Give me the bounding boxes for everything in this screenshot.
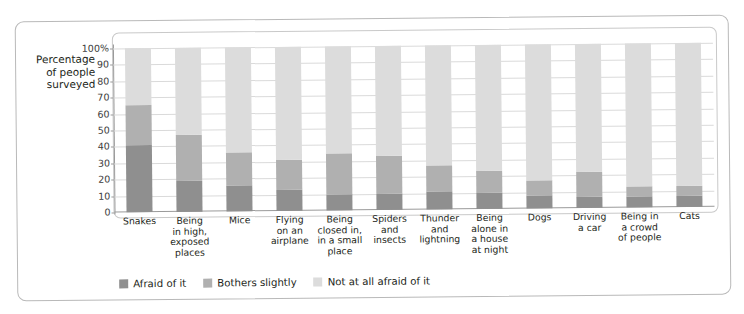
- x-axis-label-line: place: [315, 246, 365, 257]
- bar-segment-bothers-slightly: [176, 135, 202, 181]
- bar-flying-on-an-airplane[interactable]: [275, 47, 303, 211]
- legend-item[interactable]: Not at all afraid of it: [314, 275, 430, 287]
- bar-being-alone-in-a-house-at-night[interactable]: [475, 45, 503, 209]
- bar-segment-not-at-all-afraid-of-it: [675, 43, 702, 186]
- bar-being-in-a-crowd-of-people[interactable]: [625, 43, 653, 207]
- legend-label: Afraid of it: [133, 278, 186, 290]
- bar-segment-bothers-slightly: [326, 153, 352, 194]
- x-axis-category-label: Thunderandlightning: [415, 213, 465, 245]
- bar-thunder-and-lightning[interactable]: [425, 45, 453, 209]
- legend-swatch-icon: [314, 277, 323, 286]
- x-axis-label-line: insects: [365, 235, 415, 246]
- y-axis-tick: [110, 65, 113, 66]
- x-axis-category-label: Mice: [215, 215, 265, 226]
- x-axis-label-line: at night: [465, 244, 515, 255]
- x-axis-category-label: Beingin high,exposedplaces: [165, 216, 215, 259]
- y-axis-tick-label: 40: [64, 142, 110, 152]
- y-axis-tick: [111, 147, 114, 148]
- bar-segment-not-at-all-afraid-of-it: [125, 48, 152, 106]
- x-axis-category-label: Flyingon anairplane: [265, 215, 315, 247]
- bar-segment-not-at-all-afraid-of-it: [175, 48, 202, 135]
- gridline: [114, 174, 714, 181]
- x-axis-category-label: Cats: [665, 211, 715, 222]
- bar-segment-not-at-all-afraid-of-it: [625, 43, 652, 186]
- legend-swatch-icon: [203, 279, 212, 288]
- gridline: [113, 92, 713, 99]
- gridline: [114, 125, 714, 132]
- x-axis-label-line: Mice: [215, 215, 265, 226]
- x-axis-category-label: Snakes: [115, 216, 165, 227]
- legend-label: Bothers slightly: [217, 277, 297, 289]
- bar-segment-bothers-slightly: [226, 152, 252, 185]
- legend-item[interactable]: Afraid of it: [119, 278, 186, 290]
- x-axis-label-line: of people: [615, 232, 665, 243]
- bar-segment-afraid-of-it: [226, 185, 252, 211]
- gridline: [114, 158, 714, 165]
- bar-spiders-and-insects[interactable]: [375, 46, 403, 210]
- y-axis-tick-label: 10: [64, 191, 110, 201]
- bar-segment-bothers-slightly: [626, 186, 652, 196]
- y-axis-tick: [111, 180, 114, 181]
- y-axis-tick-label: 100%: [63, 44, 109, 54]
- x-axis-category-label: Spidersandinsects: [365, 214, 415, 246]
- bar-segment-afraid-of-it: [676, 195, 702, 207]
- x-axis-category-label: Drivinga car: [565, 212, 615, 234]
- bar-being-closed-in-in-a-small-place[interactable]: [325, 46, 353, 210]
- bar-segment-not-at-all-afraid-of-it: [525, 44, 552, 180]
- y-axis-tick: [111, 163, 114, 164]
- x-axis-category-label: Beingalone ina houseat night: [465, 213, 515, 256]
- x-axis-label-line: places: [165, 247, 215, 258]
- y-axis-tick-label: 20: [64, 175, 110, 185]
- y-axis-tick: [112, 212, 115, 213]
- y-axis-tick-label: 60: [64, 109, 110, 119]
- bar-segment-not-at-all-afraid-of-it: [575, 44, 602, 172]
- chart: Percentage of people surveyed 0102030405…: [0, 0, 744, 314]
- bar-being-in-high-exposed-places[interactable]: [175, 48, 203, 212]
- bar-segment-afraid-of-it: [526, 195, 552, 208]
- legend-item[interactable]: Bothers slightly: [203, 277, 297, 289]
- bar-mice[interactable]: [225, 47, 253, 211]
- bar-segment-afraid-of-it: [126, 145, 153, 212]
- bar-driving-a-car[interactable]: [575, 44, 603, 208]
- y-axis-tick: [111, 130, 114, 131]
- x-axis-label-line: Snakes: [115, 216, 165, 227]
- x-axis-label-line: a car: [565, 222, 615, 233]
- bar-segment-not-at-all-afraid-of-it: [375, 46, 402, 156]
- y-axis-tick: [110, 98, 113, 99]
- y-axis-tick: [110, 48, 113, 49]
- bar-segment-bothers-slightly: [476, 171, 502, 193]
- bar-segment-bothers-slightly: [526, 180, 552, 195]
- bar-segment-afraid-of-it: [426, 191, 452, 209]
- x-axis-label-line: lightning: [415, 234, 465, 245]
- x-axis-category-label: Being ina crowdof people: [615, 211, 665, 243]
- bar-segment-afraid-of-it: [276, 189, 302, 211]
- bar-dogs[interactable]: [525, 44, 553, 208]
- bar-segment-not-at-all-afraid-of-it: [275, 47, 302, 160]
- x-axis-label-line: airplane: [265, 236, 315, 247]
- y-axis-tick-label: 0: [64, 208, 110, 218]
- bar-cats[interactable]: [675, 43, 703, 207]
- bar-segment-afraid-of-it: [476, 192, 502, 209]
- bar-segment-not-at-all-afraid-of-it: [225, 47, 252, 152]
- figure: Percentage of people surveyed 0102030405…: [0, 0, 744, 314]
- bar-segment-bothers-slightly: [276, 160, 302, 190]
- gridline: [114, 141, 714, 148]
- legend-label: Not at all afraid of it: [328, 275, 430, 287]
- gridline: [113, 59, 713, 66]
- x-axis-category-label: Beingclosed in,in a smallplace: [315, 214, 365, 257]
- bar-segment-not-at-all-afraid-of-it: [425, 45, 452, 165]
- bar-segment-bothers-slightly: [376, 156, 402, 194]
- y-axis-tick: [110, 81, 113, 82]
- y-axis-tick-label: 80: [63, 76, 109, 86]
- gridline: [114, 190, 714, 197]
- bar-segment-bothers-slightly: [125, 106, 151, 146]
- x-axis-category-label: Dogs: [515, 212, 565, 223]
- y-axis-tick: [111, 114, 114, 115]
- y-axis-tick-label: 50: [64, 126, 110, 136]
- bar-snakes[interactable]: [125, 48, 153, 212]
- y-axis-tick-label: 30: [64, 158, 110, 168]
- x-axis-label-line: Cats: [665, 211, 715, 222]
- y-axis-tick-label: 90: [63, 60, 109, 70]
- bar-segment-not-at-all-afraid-of-it: [475, 45, 502, 172]
- bar-segment-bothers-slightly: [426, 165, 452, 191]
